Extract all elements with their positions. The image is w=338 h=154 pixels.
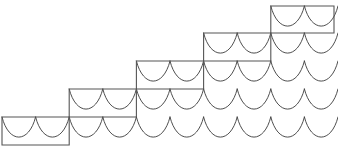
scallop-arch (170, 117, 204, 137)
scallop-arch (170, 89, 204, 109)
scallop-arch (204, 33, 238, 53)
scallop-arch (304, 89, 338, 109)
scallop-row-1 (2, 117, 338, 137)
scallop-row-3 (136, 61, 338, 81)
scallop-arch (304, 33, 338, 53)
scallop-row-5 (271, 6, 338, 26)
scallop-arch (237, 33, 271, 53)
scallop-arch (271, 89, 305, 109)
scallop-arch (69, 89, 103, 109)
scallop-arch (36, 117, 70, 137)
scallop-arch (69, 117, 103, 137)
scallop-arch (271, 33, 305, 53)
scallop-arch (237, 117, 271, 137)
scallop-arch (204, 117, 238, 137)
scallop-arch (271, 117, 305, 137)
scallop-arch (304, 6, 338, 26)
scallop-arch (103, 89, 137, 109)
scallop-arch (237, 89, 271, 109)
scallop-arch (2, 117, 36, 137)
scallop-row-2 (69, 89, 338, 109)
scallop-arch (271, 6, 305, 26)
scallop-arch (304, 117, 338, 137)
scallop-arch (304, 61, 338, 81)
figure-canvas (0, 0, 338, 154)
scallop-arch (136, 61, 170, 81)
scallop-arch (271, 61, 305, 81)
scallop-arch (136, 89, 170, 109)
staircase-scallop-figure (0, 0, 338, 154)
scallop-arch (103, 117, 137, 137)
scallop-arch (204, 89, 238, 109)
scallop-arch (204, 61, 238, 81)
scallop-arch (237, 61, 271, 81)
scallop-arch (136, 117, 170, 137)
scallop-arch (170, 61, 204, 81)
